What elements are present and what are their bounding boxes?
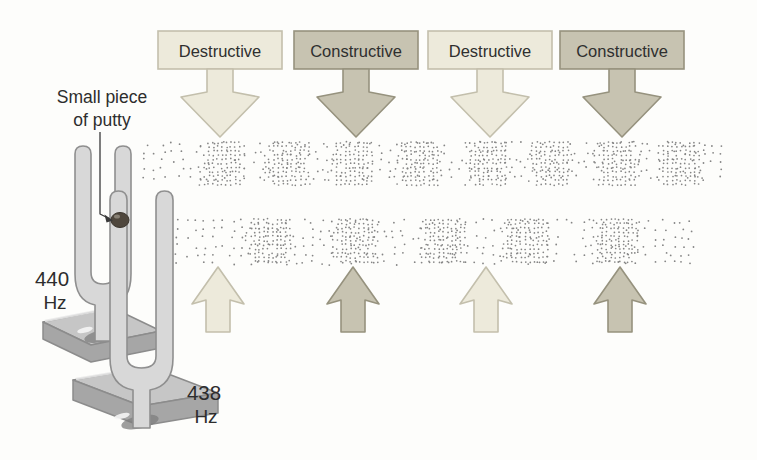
down-arrow xyxy=(317,69,395,137)
upper-wave-band xyxy=(142,141,722,186)
putty-label-line1: Small piece xyxy=(57,87,147,107)
beats-diagram: DestructiveConstructiveDestructiveConstr… xyxy=(0,0,757,460)
freq-unit-440: Hz xyxy=(43,292,66,313)
freq-unit-438: Hz xyxy=(194,406,217,427)
down-arrow xyxy=(451,69,529,137)
putty-blob xyxy=(111,213,129,228)
up-arrow-constructive-4 xyxy=(594,267,646,332)
interference-top-row: DestructiveConstructiveDestructiveConstr… xyxy=(158,31,684,137)
interference-label: Destructive xyxy=(179,42,262,60)
wave-bands xyxy=(142,141,722,266)
interference-bottom-row xyxy=(192,267,646,332)
interference-label: Destructive xyxy=(449,42,532,60)
down-arrow xyxy=(583,69,661,137)
up-arrow-constructive-2 xyxy=(327,267,379,332)
putty-label-line2: of putty xyxy=(73,110,131,130)
interference-unit-constructive-4: Constructive xyxy=(560,31,684,137)
interference-unit-destructive-3: Destructive xyxy=(428,31,552,137)
up-arrow-destructive-1 xyxy=(192,267,244,332)
figure: DestructiveConstructiveDestructiveConstr… xyxy=(0,0,757,460)
interference-label: Constructive xyxy=(310,42,402,60)
freq-label-438: 438 xyxy=(187,381,221,404)
interference-unit-destructive-1: Destructive xyxy=(158,31,282,137)
freq-label-440: 440 xyxy=(35,267,69,290)
interference-unit-constructive-2: Constructive xyxy=(294,31,418,137)
interference-label: Constructive xyxy=(576,42,668,60)
lower-wave-band xyxy=(175,218,695,266)
up-arrow-destructive-3 xyxy=(460,267,512,332)
down-arrow xyxy=(181,69,259,137)
